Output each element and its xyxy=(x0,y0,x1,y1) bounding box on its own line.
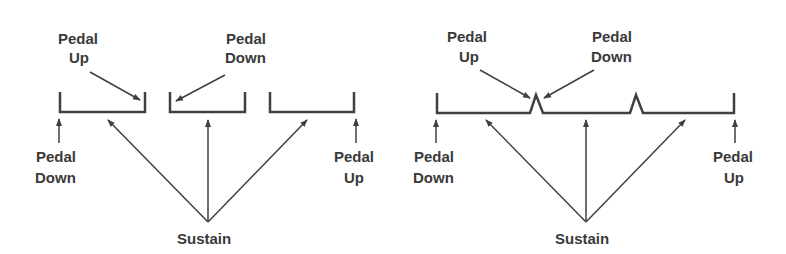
pedal-diagrams: Pedal Up Pedal Down Pedal Down Pedal Up … xyxy=(0,0,786,254)
label-pedal-up-top: Pedal Up xyxy=(58,30,102,66)
label-pedal-down-bottom: Pedal Down xyxy=(35,148,80,186)
right-diagram: Pedal Up Pedal Down Pedal Down Pedal Up … xyxy=(413,28,757,247)
label-pedal-up-bottom: Pedal Up xyxy=(334,148,378,186)
left-diagram: Pedal Up Pedal Down Pedal Down Pedal Up … xyxy=(35,30,378,247)
arrow-pedal-down xyxy=(544,70,594,98)
arrow-sustain-1 xyxy=(108,120,208,222)
label-pedal-up-top: Pedal Up xyxy=(447,28,491,65)
arrow-sustain-3 xyxy=(586,120,685,222)
arrow-pedal-up xyxy=(90,72,140,100)
label-sustain: Sustain xyxy=(555,230,609,247)
arrow-sustain-1 xyxy=(486,120,586,222)
arrow-pedal-up xyxy=(480,70,530,98)
sustain-segment-3 xyxy=(270,92,354,112)
label-pedal-down-top: Pedal Down xyxy=(225,30,270,66)
label-pedal-down-bottom: Pedal Down xyxy=(413,148,458,186)
sustain-line-with-peaks xyxy=(437,93,734,113)
label-pedal-up-bottom: Pedal Up xyxy=(713,148,757,186)
label-pedal-down-top: Pedal Down xyxy=(591,28,636,65)
arrow-pedal-down xyxy=(176,75,225,101)
arrow-sustain-3 xyxy=(208,120,307,222)
sustain-segment-2 xyxy=(170,92,245,112)
label-sustain: Sustain xyxy=(177,230,231,247)
